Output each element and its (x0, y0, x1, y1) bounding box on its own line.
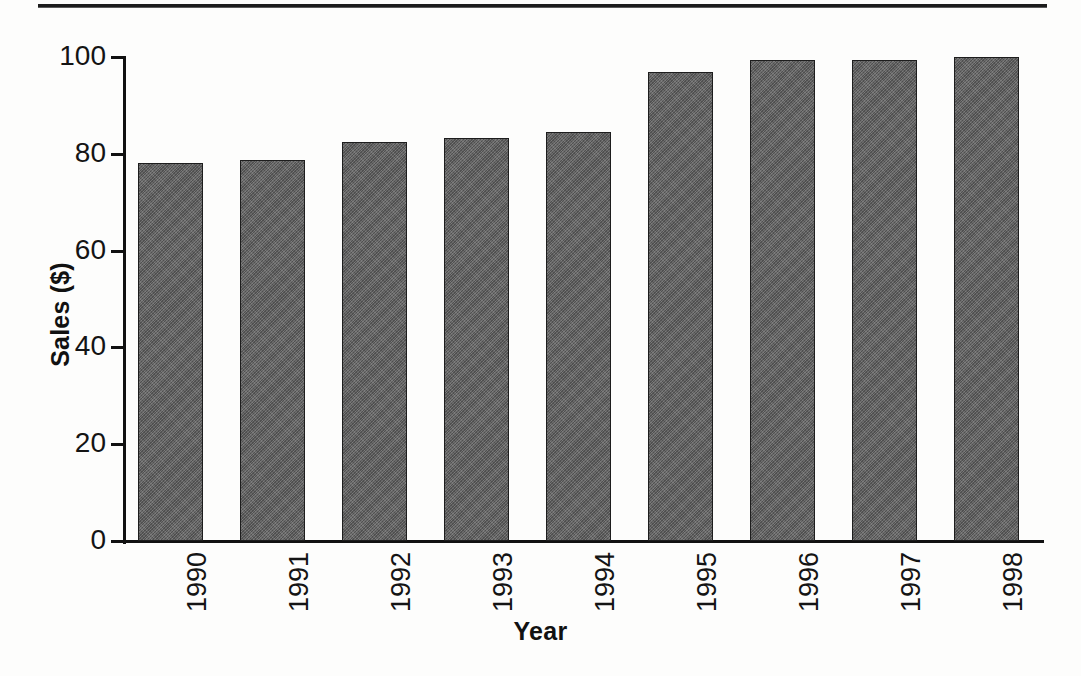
y-axis-tick-label: 40 (48, 332, 106, 360)
bar-chart-figure: Sales ($) 020406080100 19901991199219931… (0, 0, 1081, 676)
bar-1993 (444, 138, 509, 541)
y-axis-tick-label: 20 (48, 429, 106, 457)
plot-area (124, 50, 1060, 541)
bar-1997 (852, 60, 917, 541)
chart-page: Sales ($) 020406080100 19901991199219931… (0, 0, 1081, 676)
y-axis-tick-label: 0 (48, 526, 106, 554)
bar-1995 (648, 72, 713, 541)
bar-1991 (240, 160, 305, 541)
y-axis-tick-label: 80 (48, 139, 106, 167)
bar-1992 (342, 142, 407, 541)
bar-1994 (546, 132, 611, 541)
x-axis-title: Year (0, 617, 1081, 646)
y-axis-tick-labels: 020406080100 (38, 0, 106, 676)
y-axis-tick-label: 60 (48, 236, 106, 264)
bar-1990 (138, 163, 203, 541)
bar-1998 (954, 57, 1019, 541)
y-axis-tick-label: 100 (48, 42, 106, 70)
bar-1996 (750, 60, 815, 541)
